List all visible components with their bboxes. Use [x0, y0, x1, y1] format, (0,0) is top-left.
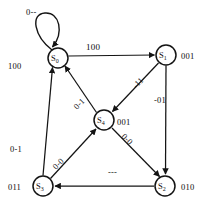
node-s0-subscript: 0 — [56, 58, 59, 64]
node-s2-subscript: 2 — [163, 186, 166, 192]
node-s3-subscript: 3 — [41, 186, 44, 192]
edge-s0-s1 — [69, 55, 155, 56]
edge-s3-s0 — [43, 68, 53, 176]
output-label-s0: 100 — [8, 62, 21, 71]
edge-label-self-loop: 0-- — [26, 8, 37, 17]
output-label-s4: 001 — [117, 118, 130, 127]
node-s3-label: S3 — [36, 182, 44, 191]
node-s4-subscript: 4 — [102, 120, 105, 126]
edge-label-s1-s2: -01 — [154, 96, 166, 105]
edge-s1-s2 — [166, 66, 167, 175]
output-label-s3: 011 — [8, 183, 21, 192]
output-label-s1: 001 — [181, 52, 194, 61]
diagram-canvas — [0, 0, 206, 206]
node-s4-label: S4 — [97, 116, 105, 125]
output-label-s2: 010 — [181, 183, 194, 192]
edge-s4-s2 — [112, 128, 160, 177]
node-s1-label: S1 — [159, 51, 167, 60]
edge-label-s2-s3: --- — [108, 168, 117, 177]
edge-label-s0-s1: 100 — [86, 43, 100, 52]
node-s2-label: S2 — [158, 182, 166, 191]
node-s1-subscript: 1 — [164, 55, 167, 61]
node-s0-label: S0 — [51, 54, 59, 63]
edge-s0-s0-selfloop — [36, 13, 59, 50]
edge-label-s3-s0: 0-1 — [10, 145, 22, 154]
state-transition-diagram: S0 S1 S4 S3 S2 100 001 001 011 010 0-- 1… — [0, 0, 206, 206]
